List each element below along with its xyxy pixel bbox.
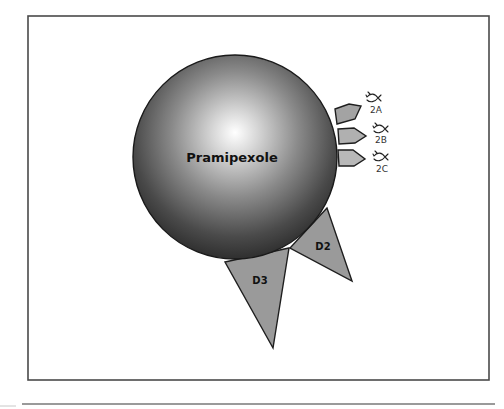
receptor-d3-label: D3 (252, 275, 267, 286)
diagram-canvas: Pramipexole D3 D2 2A 2B 2C (0, 0, 504, 409)
receptor-d2-label: D2 (315, 241, 330, 252)
drug-label: Pramipexole (186, 150, 278, 165)
receptor-5ht2a-label: 2A (370, 105, 383, 115)
receptor-5ht2b-label: 2B (375, 135, 387, 145)
receptor-5ht2c-label: 2C (376, 164, 388, 174)
